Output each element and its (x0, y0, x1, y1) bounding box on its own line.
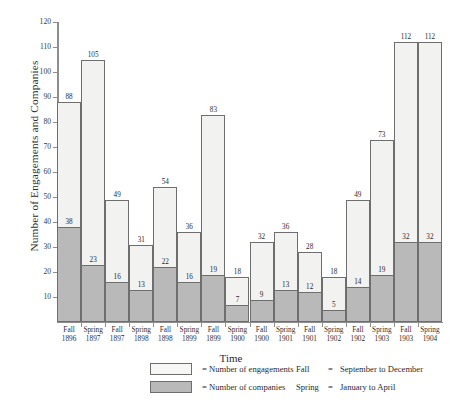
y-tick-label: 10 (29, 292, 51, 301)
bar-value-label-engagements: 83 (201, 106, 225, 114)
y-tick (53, 47, 58, 48)
bar-value-label-companies: 19 (201, 266, 225, 274)
y-tick (53, 22, 58, 23)
x-axis-title: Time (0, 352, 462, 364)
bar-value-label-engagements: 88 (57, 93, 81, 101)
note-spring-key: Spring (296, 382, 326, 392)
bar-companies (201, 275, 225, 323)
x-tick (322, 322, 323, 327)
bar-value-label-engagements: 54 (153, 178, 177, 186)
bar-value-label-companies: 19 (370, 266, 394, 274)
bar-value-label-companies: 12 (298, 283, 322, 291)
bar-value-label-companies: 32 (394, 233, 418, 241)
x-tick (394, 322, 395, 327)
bar-value-label-engagements: 28 (298, 243, 322, 251)
x-category-label: Spring1899 (177, 325, 201, 343)
bar-companies (105, 282, 129, 322)
bar-value-label-companies: 13 (129, 281, 153, 289)
x-tick (370, 322, 371, 327)
bar-value-label-engagements: 36 (274, 223, 298, 231)
bar-value-label-engagements: 18 (322, 268, 346, 276)
chart-figure: Number of Engagements and Companies Time… (0, 0, 462, 411)
y-tick-label: 30 (29, 242, 51, 251)
y-tick (53, 72, 58, 73)
bar-value-label-companies: 23 (81, 256, 105, 264)
x-tick (105, 322, 106, 327)
x-tick (274, 322, 275, 327)
x-category-label: Fall1900 (250, 325, 274, 343)
bar-value-label-companies: 16 (105, 273, 129, 281)
bar-companies (225, 305, 249, 323)
bar-value-label-companies: 13 (274, 281, 298, 289)
x-tick (298, 322, 299, 327)
note-fall-equals: = (328, 364, 333, 374)
figure-caption (0, 401, 462, 411)
bar-value-label-companies: 22 (153, 258, 177, 266)
bar-companies (274, 290, 298, 323)
bar-value-label-companies: 5 (322, 301, 346, 309)
bar-companies (153, 267, 177, 322)
bar-value-label-engagements: 18 (225, 268, 249, 276)
note-spring-equals: = (328, 382, 333, 392)
bar-companies (177, 282, 201, 322)
bar-value-label-companies: 32 (418, 233, 442, 241)
x-tick (129, 322, 130, 327)
x-category-label: Fall1899 (201, 325, 225, 343)
x-tick (177, 322, 178, 327)
y-tick-label: 100 (29, 67, 51, 76)
x-category-label: Fall1897 (105, 325, 129, 343)
bar-value-label-engagements: 36 (177, 223, 201, 231)
plot-area: 102030405060708090100110120 883810523491… (57, 22, 442, 322)
x-tick (201, 322, 202, 327)
y-tick-label: 90 (29, 92, 51, 101)
bar-value-label-engagements: 112 (418, 33, 442, 41)
x-category-label: Fall1896 (57, 325, 81, 343)
bar-companies (57, 227, 81, 322)
bar-companies (81, 265, 105, 323)
y-tick-label: 40 (29, 217, 51, 226)
x-category-label: Spring1901 (274, 325, 298, 343)
bar-companies (370, 275, 394, 323)
bar-value-label-engagements: 112 (394, 33, 418, 41)
x-tick (250, 322, 251, 327)
bar-companies (298, 292, 322, 322)
legend-label-companies: = Number of companies (202, 382, 285, 392)
x-category-label: Fall1901 (298, 325, 322, 343)
y-tick-label: 80 (29, 117, 51, 126)
x-category-label: Spring1898 (129, 325, 153, 343)
legend-label-engagements: = Number of engagements (202, 364, 293, 374)
y-tick-label: 110 (29, 42, 51, 51)
bar-value-label-engagements: 49 (105, 191, 129, 199)
x-category-label: Spring1903 (370, 325, 394, 343)
bar-value-label-engagements: 32 (250, 233, 274, 241)
x-category-label: Spring1904 (418, 325, 442, 343)
bar-companies (346, 287, 370, 322)
note-spring-value: January to April (340, 382, 395, 392)
note-fall-value: September to December (340, 364, 423, 374)
x-category-label: Spring1897 (81, 325, 105, 343)
x-tick (225, 322, 226, 327)
x-category-label: Fall1903 (394, 325, 418, 343)
x-tick (418, 322, 419, 327)
x-category-label: Spring1902 (322, 325, 346, 343)
bar-companies (250, 300, 274, 323)
x-tick (81, 322, 82, 327)
y-tick-label: 70 (29, 142, 51, 151)
x-category-label: Spring1900 (225, 325, 249, 343)
note-fall-key: Fall (296, 364, 326, 374)
y-tick-label: 20 (29, 267, 51, 276)
bar-value-label-engagements: 105 (81, 51, 105, 59)
bar-value-label-companies: 16 (177, 273, 201, 281)
bar-value-label-engagements: 49 (346, 191, 370, 199)
bar-value-label-companies: 7 (225, 296, 249, 304)
y-tick-label: 60 (29, 167, 51, 176)
bar-companies (129, 290, 153, 323)
bar-value-label-companies: 9 (250, 291, 274, 299)
y-tick-label: 120 (29, 17, 51, 26)
x-tick (346, 322, 347, 327)
bar-value-label-companies: 38 (57, 218, 81, 226)
bar-value-label-companies: 14 (346, 278, 370, 286)
bar-companies (394, 242, 418, 322)
bar-companies (418, 242, 442, 322)
x-category-label: Fall1902 (346, 325, 370, 343)
